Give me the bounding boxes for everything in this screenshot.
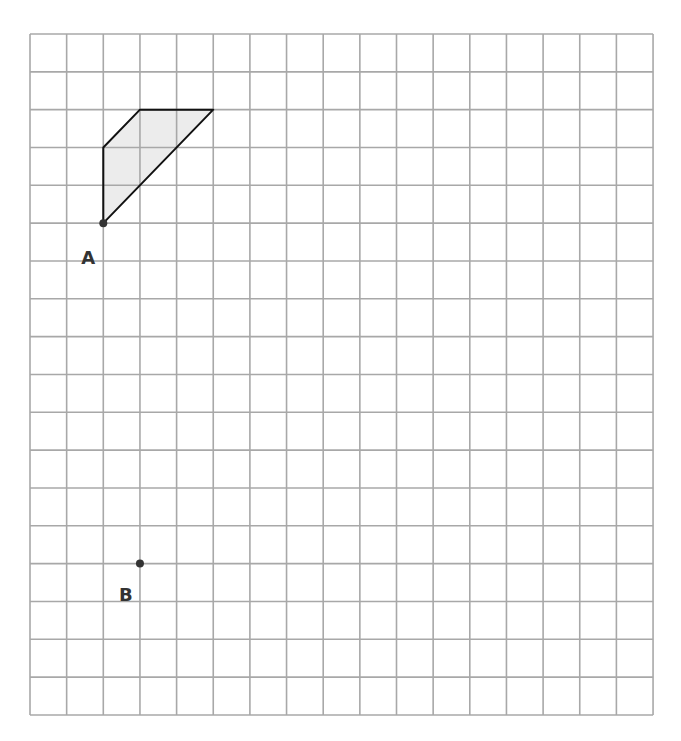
point-b-label: B <box>119 584 133 605</box>
point-a-marker <box>99 219 107 227</box>
point-a-label: A <box>81 247 95 268</box>
point-b-marker <box>136 560 144 568</box>
grid-diagram <box>0 0 681 741</box>
